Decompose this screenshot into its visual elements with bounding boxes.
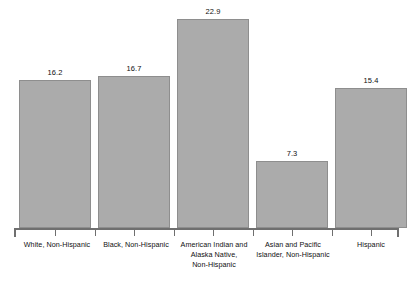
x-axis-label-black-non-hispanic: Black, Non-Hispanic	[96, 240, 176, 250]
bar-slot-3: 7.3	[256, 0, 328, 228]
x-axis	[0, 228, 415, 240]
x-axis-tick-center-0	[55, 230, 56, 236]
x-axis-tick-start	[14, 230, 16, 237]
bar-value-label: 15.4	[335, 76, 407, 85]
bar-american-indian-alaska-native-non-hispanic[interactable]	[177, 19, 249, 228]
x-axis-labels: White, Non-Hispanic Black, Non-Hispanic …	[19, 240, 395, 285]
x-axis-line	[14, 228, 399, 230]
bar-hispanic[interactable]	[335, 88, 407, 228]
bar-chart: 16.2 16.7 22.9 7.3 15.4	[0, 0, 415, 285]
x-axis-tick-boundary-2	[253, 230, 254, 236]
x-axis-tick-center-2	[213, 230, 214, 236]
label-line: Islander, Non-Hispanic	[251, 250, 335, 260]
bar-slot-0: 16.2	[19, 0, 91, 228]
bar-value-label: 16.7	[98, 64, 170, 73]
plot-area: 16.2 16.7 22.9 7.3 15.4	[0, 0, 415, 228]
bar-value-label: 16.2	[19, 68, 91, 77]
bar-slot-4: 15.4	[335, 0, 407, 228]
bar-slot-2: 22.9	[177, 0, 249, 228]
bar-value-label: 7.3	[256, 149, 328, 158]
x-axis-tick-boundary-0	[95, 230, 96, 236]
bar-slot-1: 16.7	[98, 0, 170, 228]
x-axis-label-asian-pacific-islander-non-hispanic: Asian and Pacific Islander, Non-Hispanic	[251, 240, 335, 260]
bar-asian-pacific-islander-non-hispanic[interactable]	[256, 161, 328, 228]
label-line: Non-Hispanic	[173, 260, 255, 270]
x-axis-tick-center-4	[371, 230, 372, 236]
x-axis-label-white-non-hispanic: White, Non-Hispanic	[17, 240, 97, 250]
x-axis-tick-boundary-1	[174, 230, 175, 236]
label-line: Alaska Native,	[173, 250, 255, 260]
label-line: American Indian and	[173, 240, 255, 250]
x-axis-tick-boundary-3	[332, 230, 333, 236]
x-axis-tick-end	[397, 230, 399, 237]
x-axis-label-american-indian-alaska-native-non-hispanic: American Indian and Alaska Native, Non-H…	[173, 240, 255, 270]
label-line: Hispanic	[331, 240, 411, 250]
bar-black-non-hispanic[interactable]	[98, 76, 170, 228]
bars-container: 16.2 16.7 22.9 7.3 15.4	[19, 0, 395, 228]
label-line: White, Non-Hispanic	[17, 240, 97, 250]
bar-value-label: 22.9	[177, 7, 249, 16]
x-axis-tick-center-3	[292, 230, 293, 236]
x-axis-tick-center-1	[134, 230, 135, 236]
label-line: Asian and Pacific	[251, 240, 335, 250]
bar-white-non-hispanic[interactable]	[19, 80, 91, 228]
label-line: Black, Non-Hispanic	[96, 240, 176, 250]
x-axis-label-hispanic: Hispanic	[331, 240, 411, 250]
